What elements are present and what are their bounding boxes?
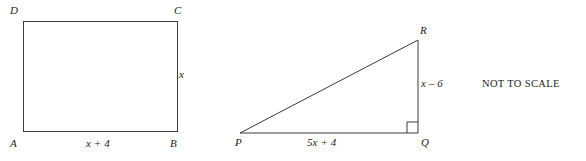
rectangle-side-label-bottom: x + 4 <box>86 138 110 149</box>
rectangle-vertex-label-c: C <box>174 5 181 16</box>
rectangle-vertex-label-d: D <box>10 5 18 16</box>
triangle-vertex-label-q: Q <box>421 137 429 148</box>
right-angle-marker-icon <box>407 122 418 133</box>
rectangle-vertex-label-a: A <box>10 138 17 149</box>
rectangle-abcd-shape <box>24 22 178 132</box>
triangle-pqr-shape <box>240 40 418 133</box>
triangle-vertex-label-p: P <box>235 137 242 148</box>
triangle-side-label-right: x – 6 <box>421 78 443 89</box>
rectangle-vertex-label-b: B <box>170 138 177 149</box>
rectangle-side-label-right: x <box>179 69 184 80</box>
triangle-vertex-label-r: R <box>420 25 427 36</box>
not-to-scale-note: NOT TO SCALE <box>482 78 560 89</box>
triangle-side-label-bottom: 5x + 4 <box>307 137 336 148</box>
